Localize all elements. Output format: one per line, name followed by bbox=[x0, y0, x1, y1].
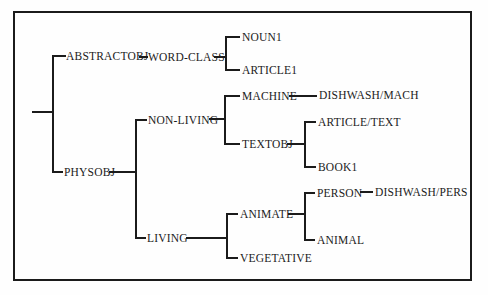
node-book1: BOOK1 bbox=[318, 161, 357, 173]
edge-textobj-bracket bbox=[304, 121, 306, 168]
edge-root-abstractobj bbox=[52, 55, 66, 57]
tree-diagram-figure: ABSTRACTOBJ WORD-CLASS NOUN1 ARTICLE1 PH… bbox=[0, 0, 488, 295]
node-living: LIVING bbox=[147, 232, 188, 244]
edge-root-physobj bbox=[52, 171, 63, 173]
node-animate: ANIMATE bbox=[240, 208, 293, 220]
edge-textobj-book1 bbox=[304, 166, 316, 168]
edge-wordclass-noun1 bbox=[225, 36, 240, 38]
node-animal: ANIMAL bbox=[317, 234, 364, 246]
edge-nonliving-bracket bbox=[224, 95, 226, 145]
edge-animate-animal bbox=[304, 239, 315, 241]
node-person: PERSON bbox=[317, 187, 362, 199]
edge-living-animate bbox=[226, 213, 238, 215]
edge-nonliving-machine bbox=[224, 95, 240, 97]
node-physobj: PHYSOBJ bbox=[64, 166, 115, 178]
node-machine: MACHINE bbox=[242, 90, 297, 102]
node-dishwash-pers: DISHWASH/PERS bbox=[375, 186, 468, 198]
edge-animate-bracket bbox=[304, 192, 306, 241]
edge-living-bracket bbox=[226, 213, 228, 259]
node-vegetative: VEGETATIVE bbox=[240, 252, 312, 264]
node-non-living: NON-LIVING bbox=[148, 114, 218, 126]
edge-physobj-bracket bbox=[135, 119, 137, 239]
node-abstractobj: ABSTRACTOBJ bbox=[66, 50, 149, 62]
node-article-text: ARTICLE/TEXT bbox=[318, 116, 401, 128]
node-noun1: NOUN1 bbox=[242, 31, 282, 43]
node-word-class: WORD-CLASS bbox=[148, 51, 225, 63]
edge-living-stem bbox=[186, 237, 228, 239]
node-dishwash-mach: DISHWASH/MACH bbox=[319, 89, 419, 101]
edge-wordclass-article1 bbox=[225, 69, 240, 71]
edge-root-bracket bbox=[52, 55, 54, 173]
edge-physobj-living bbox=[135, 237, 146, 239]
edge-root-stub bbox=[32, 111, 53, 113]
edge-living-vegetative bbox=[226, 257, 238, 259]
node-textobj: TEXTOBJ bbox=[242, 138, 293, 150]
edge-nonliving-textobj bbox=[224, 143, 240, 145]
edge-physobj-nonliving bbox=[135, 119, 147, 121]
edge-animate-person bbox=[304, 192, 315, 194]
edge-wordclass-bracket bbox=[225, 36, 227, 71]
node-article1: ARTICLE1 bbox=[242, 64, 297, 76]
edge-textobj-articletext bbox=[304, 121, 316, 123]
